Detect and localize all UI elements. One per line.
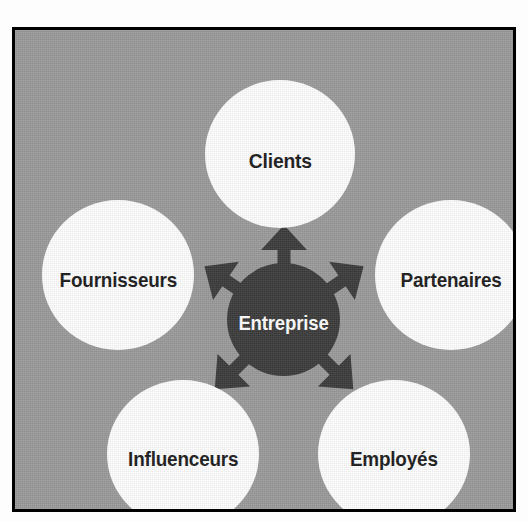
node-fournisseurs-label: Fournisseurs <box>59 269 177 290</box>
node-employes[interactable]: Employés <box>318 380 470 512</box>
node-influenceurs[interactable]: Influenceurs <box>107 380 259 512</box>
node-clients[interactable]: Clients <box>205 80 355 228</box>
diagram-canvas: Clients Partenaires Employés Influenceur… <box>0 0 528 522</box>
node-partenaires-label: Partenaires <box>401 269 502 290</box>
node-clients-label: Clients <box>248 150 311 171</box>
node-fournisseurs[interactable]: Fournisseurs <box>42 200 194 350</box>
node-influenceurs-label: Influenceurs <box>128 448 238 469</box>
node-employes-label: Employés <box>350 448 438 469</box>
node-entreprise[interactable]: Entreprise <box>227 263 340 376</box>
node-entreprise-label: Entreprise <box>238 313 328 333</box>
diagram-frame: Clients Partenaires Employés Influenceur… <box>12 27 516 512</box>
node-partenaires[interactable]: Partenaires <box>375 200 516 350</box>
